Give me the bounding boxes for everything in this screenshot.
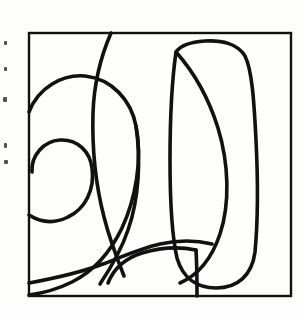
scan-speck-2 <box>3 97 7 102</box>
scan-speck-4 <box>4 160 8 164</box>
scan-speck-0 <box>4 41 7 45</box>
scan-speck-3 <box>4 143 7 148</box>
artwork-canvas <box>0 0 304 314</box>
scan-speck-1 <box>4 67 7 71</box>
scan-artifact-marks <box>0 0 16 314</box>
bottom-vertical-stub <box>196 250 197 296</box>
page-root: Abstract Continuous-Line Drawing <box>0 0 304 314</box>
